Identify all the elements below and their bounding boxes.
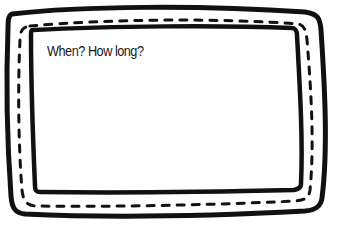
frame-border-icon xyxy=(0,0,337,228)
frame-prompt: When? How long? xyxy=(47,42,144,59)
